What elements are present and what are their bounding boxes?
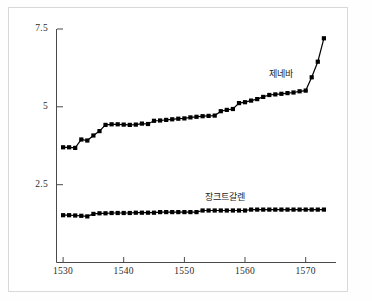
data-point [103, 211, 107, 215]
x-tick-label: 1570 [286, 266, 326, 276]
data-point [67, 145, 71, 149]
x-tick-label: 1530 [43, 266, 83, 276]
data-point [255, 97, 259, 101]
data-point [213, 208, 217, 212]
data-point [285, 208, 289, 212]
axes [57, 29, 337, 263]
y-tick-label: 2.5 [18, 179, 48, 189]
data-point [110, 122, 114, 126]
data-point [91, 133, 95, 137]
data-point [194, 210, 198, 214]
data-point [182, 116, 186, 120]
data-point [67, 213, 71, 217]
data-point [176, 117, 180, 121]
data-point [152, 211, 156, 215]
chart-plot-area [0, 0, 372, 301]
data-point [261, 208, 265, 212]
data-point [249, 99, 253, 103]
data-point [79, 214, 83, 218]
data-point [213, 114, 217, 118]
data-point [207, 208, 211, 212]
data-point [146, 211, 150, 215]
chart-figure: 2.557.5 15301540155015601570 제네바 장크트갈렌 [0, 0, 372, 301]
data-point [298, 89, 302, 93]
data-point [249, 208, 253, 212]
data-point [152, 119, 156, 123]
y-tick-label: 5 [18, 101, 48, 111]
data-point [322, 208, 326, 212]
data-point [285, 91, 289, 95]
data-point [79, 137, 83, 141]
data-point [310, 75, 314, 79]
data-point [116, 211, 120, 215]
data-point [164, 118, 168, 122]
data-point [61, 145, 65, 149]
data-point [188, 210, 192, 214]
data-point [237, 208, 241, 212]
data-point [225, 108, 229, 112]
data-point [176, 210, 180, 214]
data-point [219, 208, 223, 212]
data-point [243, 208, 247, 212]
data-point [316, 208, 320, 212]
data-point [140, 122, 144, 126]
data-point [243, 100, 247, 104]
x-tick-label: 1550 [164, 266, 204, 276]
data-point [128, 123, 132, 127]
data-point [85, 214, 89, 218]
x-tick-label: 1540 [104, 266, 144, 276]
data-point [273, 208, 277, 212]
data-point [97, 129, 101, 133]
y-tick-label: 7.5 [18, 23, 48, 33]
data-point [73, 213, 77, 217]
series-line [63, 38, 324, 148]
data-point [134, 211, 138, 215]
data-point [322, 36, 326, 40]
data-point [188, 115, 192, 119]
data-point [298, 208, 302, 212]
data-point [128, 211, 132, 215]
series-geneva [61, 36, 326, 150]
data-point [267, 208, 271, 212]
data-point [261, 95, 265, 99]
data-point [110, 211, 114, 215]
data-point [85, 138, 89, 142]
data-point [122, 211, 126, 215]
data-point [279, 208, 283, 212]
data-point [97, 211, 101, 215]
data-point [158, 118, 162, 122]
data-series-layer [61, 36, 326, 218]
x-tick-label: 1560 [225, 266, 265, 276]
data-point [201, 208, 205, 212]
series-line [63, 210, 324, 217]
data-point [146, 122, 150, 126]
data-point [194, 115, 198, 119]
data-point [91, 212, 95, 216]
data-point [201, 114, 205, 118]
data-point [225, 208, 229, 212]
data-point [291, 90, 295, 94]
data-point [219, 109, 223, 113]
data-point [122, 123, 126, 127]
data-point [116, 122, 120, 126]
data-point [170, 117, 174, 121]
data-point [279, 92, 283, 96]
data-point [164, 210, 168, 214]
data-point [158, 210, 162, 214]
data-point [231, 107, 235, 111]
data-point [231, 208, 235, 212]
data-point [170, 210, 174, 214]
data-point [255, 208, 259, 212]
data-point [207, 114, 211, 118]
data-point [237, 101, 241, 105]
data-point [182, 210, 186, 214]
data-point [273, 92, 277, 96]
series-label-st-gallen: 장크트갈렌 [205, 190, 245, 203]
data-point [316, 60, 320, 64]
data-point [140, 211, 144, 215]
x-tick-marks [63, 257, 306, 263]
data-point [304, 208, 308, 212]
y-tick-marks [57, 29, 63, 185]
data-point [291, 208, 295, 212]
data-point [61, 213, 65, 217]
